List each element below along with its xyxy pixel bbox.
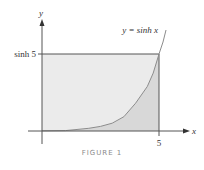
- x-tick-label: 5: [157, 138, 162, 148]
- x-axis-arrow-icon: [183, 129, 190, 134]
- sinh-diagram: y x sinh 5 5 y = sinh x: [0, 0, 204, 170]
- figure-caption: FIGURE 1: [0, 149, 204, 157]
- y-axis-arrow-icon: [40, 19, 45, 26]
- y-tick-label: sinh 5: [14, 49, 36, 59]
- y-axis-label: y: [38, 8, 43, 18]
- curve-label: y = sinh x: [121, 25, 158, 35]
- x-axis-label: x: [191, 126, 196, 136]
